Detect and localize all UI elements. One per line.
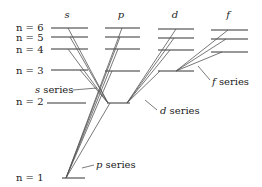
column-label-d: d [172,9,178,20]
column-label-p: p [118,9,125,20]
level-label-n1: n = 1 [16,172,44,183]
level-label-n3: n = 3 [16,65,44,76]
level-label-n2: n = 2 [16,96,44,107]
series-label-p: p series [96,159,136,170]
column-label-s: s [64,9,69,20]
energy-levels [47,28,248,178]
series-label-s: ss series series [35,84,73,95]
series-label-f: f series [211,76,249,87]
transition-lines [66,28,228,178]
energy-level-diagram: s p d f n = 6 n = 5 n = 4 n = 3 n = 2 n … [0,0,262,187]
series-label-d: d series [160,105,200,116]
level-label-n5: n = 5 [16,32,44,43]
level-label-n4: n = 4 [16,44,44,55]
column-label-f: f [225,9,232,20]
